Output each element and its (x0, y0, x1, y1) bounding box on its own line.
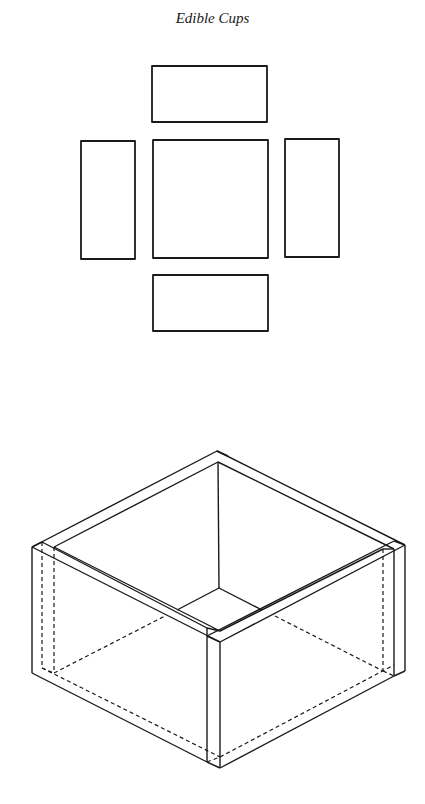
net-left-flap (81, 141, 135, 259)
diagram-canvas (0, 0, 425, 804)
hidden-edges (42, 542, 394, 762)
inner-back-edge (218, 462, 219, 588)
cup-net (81, 66, 339, 331)
net-base (153, 140, 268, 258)
net-top-flap (152, 66, 267, 122)
assembled-box (32, 451, 405, 768)
rim-inner-back (54, 462, 394, 549)
net-bottom-flap (153, 275, 268, 331)
net-right-flap (285, 139, 339, 257)
